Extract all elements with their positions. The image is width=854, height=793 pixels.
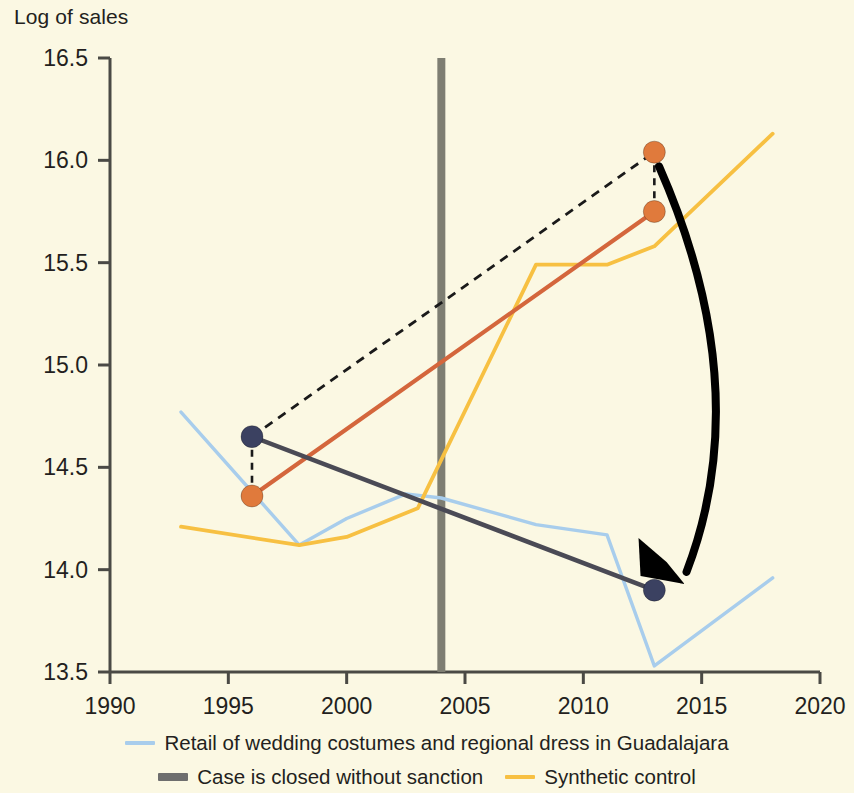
data-point-orange-left: [241, 485, 263, 507]
x-tick-label: 2010: [558, 693, 609, 719]
series-line-counterfactual: [252, 212, 654, 497]
gap-connectors: [252, 152, 654, 496]
x-tick-label: 2005: [439, 693, 490, 719]
legend-label-synthetic: Synthetic control: [544, 765, 696, 789]
data-point-orange-top-right: [643, 141, 665, 163]
legend-swatch-case-closed: [158, 773, 188, 781]
chart-canvas: Log of sales 13.514.014.515.015.516.016.…: [0, 0, 854, 793]
y-tick-label: 14.0: [43, 557, 88, 583]
legend-item-retail[interactable]: Retail of wedding costumes and regional …: [125, 731, 728, 755]
legend-row-1: Retail of wedding costumes and regional …: [0, 726, 854, 760]
data-point-navy-right: [643, 579, 665, 601]
data-point-markers: [241, 141, 665, 601]
y-axis-tick-labels: 13.514.014.515.015.516.016.5: [43, 45, 88, 685]
legend-swatch-retail: [125, 741, 155, 745]
legend-label-retail: Retail of wedding costumes and regional …: [164, 731, 728, 755]
legend-item-case-closed[interactable]: Case is closed without sanction: [158, 765, 483, 789]
y-tick-label: 13.5: [43, 659, 88, 685]
x-tick-label: 1990: [84, 693, 135, 719]
legend-row-2: Case is closed without sanction Syntheti…: [0, 760, 854, 793]
y-axis-ticks: [98, 58, 110, 672]
chart-svg: 13.514.014.515.015.516.016.5 19901995200…: [0, 0, 854, 793]
legend-item-synthetic[interactable]: Synthetic control: [505, 765, 696, 789]
x-tick-label: 2000: [321, 693, 372, 719]
legend: Retail of wedding costumes and regional …: [0, 726, 854, 793]
legend-swatch-synthetic: [505, 775, 535, 779]
x-tick-label: 1995: [203, 693, 254, 719]
y-tick-label: 15.0: [43, 352, 88, 378]
x-tick-label: 2020: [794, 693, 845, 719]
data-point-navy-left: [241, 426, 263, 448]
y-tick-label: 14.5: [43, 454, 88, 480]
series-line-dashed-projection: [252, 152, 654, 437]
x-axis-tick-labels: 1990199520002005201020152020: [84, 693, 845, 719]
series-line-observed: [252, 437, 654, 590]
x-axis-ticks: [110, 672, 820, 684]
x-tick-label: 2015: [676, 693, 727, 719]
effect-arrow: [639, 166, 716, 583]
data-point-orange-right: [643, 201, 665, 223]
y-tick-label: 15.5: [43, 250, 88, 276]
legend-label-case-closed: Case is closed without sanction: [197, 765, 483, 789]
y-tick-label: 16.0: [43, 147, 88, 173]
y-tick-label: 16.5: [43, 45, 88, 71]
